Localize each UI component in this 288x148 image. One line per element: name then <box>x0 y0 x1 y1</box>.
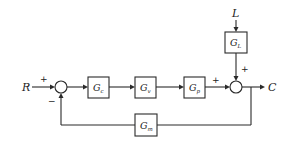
feedback-minus-sign: − <box>48 96 56 106</box>
arrow-head-icon <box>130 85 135 90</box>
process-plus-sign: + <box>212 75 220 85</box>
output-signal-label: C <box>268 81 277 94</box>
process-block: G p <box>184 77 205 98</box>
measurement-block: G m <box>135 114 157 136</box>
arrow-head-icon <box>260 85 265 90</box>
input-signal-label: R <box>21 81 30 94</box>
arrow-head-icon <box>234 76 239 81</box>
valve-block: G v <box>135 77 156 98</box>
block-diagram: R + − G c G v G p + L G L <box>0 0 288 148</box>
arrow-head-icon <box>59 93 64 98</box>
load-summing-junction <box>230 81 242 93</box>
input-plus-sign: + <box>40 74 48 84</box>
load-block-subscript: L <box>237 43 242 49</box>
measurement-subscript: m <box>148 126 153 132</box>
arrow-head-icon <box>83 85 88 90</box>
load-plus-sign: + <box>241 64 249 74</box>
controller-subscript: c <box>101 88 104 94</box>
comparator-summing-junction <box>55 81 67 93</box>
load-signal-label: L <box>231 7 239 20</box>
arrow-head-icon <box>234 27 239 32</box>
arrow-head-icon <box>50 85 55 90</box>
process-subscript: p <box>197 88 201 95</box>
controller-block: G c <box>88 77 109 98</box>
load-block: G L <box>225 32 247 53</box>
arrow-head-icon <box>225 85 230 90</box>
arrow-head-icon <box>179 85 184 90</box>
